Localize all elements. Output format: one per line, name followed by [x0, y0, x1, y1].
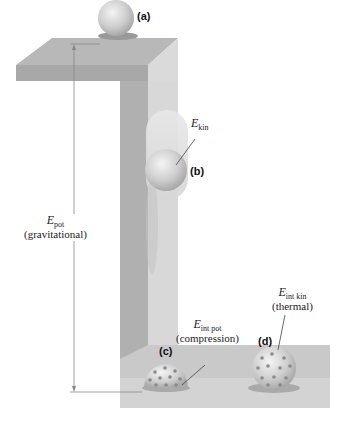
e-kin-sub: kin — [198, 123, 208, 132]
e-kin-label: Ekin — [191, 117, 209, 132]
ball-a — [98, 0, 134, 36]
label-d: (d) — [258, 336, 272, 348]
label-c: (c) — [159, 346, 172, 358]
e-pot-desc: (gravitational) — [24, 229, 87, 241]
label-a: (a) — [137, 11, 150, 23]
e-int-pot-label: Eint pot (compression) — [176, 318, 239, 345]
e-pot-label: Epot (gravitational) — [24, 214, 87, 241]
e-int-pot-symbol: E — [193, 317, 200, 331]
label-b: (b) — [190, 166, 204, 178]
e-int-kin-label: Eint kin (thermal) — [272, 286, 313, 313]
e-int-pot-desc: (compression) — [176, 333, 239, 345]
e-int-kin-symbol: E — [278, 285, 285, 299]
e-pot-symbol: E — [47, 213, 54, 227]
ball-b — [145, 149, 187, 191]
e-int-kin-desc: (thermal) — [272, 301, 313, 313]
